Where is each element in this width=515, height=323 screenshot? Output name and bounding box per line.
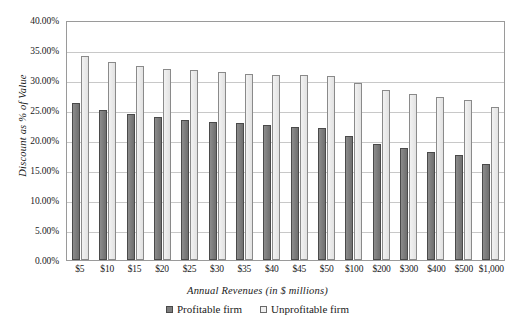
bar xyxy=(263,125,271,260)
bar xyxy=(127,114,135,260)
y-axis-tick-label: 20.00% xyxy=(30,136,59,146)
y-axis-tick-label: 40.00% xyxy=(30,16,59,26)
x-axis-title: Annual Revenues (in $ millions) xyxy=(0,285,515,296)
bar-group xyxy=(422,22,449,260)
x-axis-tick-labels: $5$10$15$20$25$30$35$40$45$50$100$200$30… xyxy=(66,264,505,280)
x-axis-tick-label: $5 xyxy=(66,264,93,280)
x-axis-tick-label: $30 xyxy=(203,264,230,280)
bar xyxy=(181,120,189,260)
x-axis-tick-label: $500 xyxy=(450,264,477,280)
bar xyxy=(81,56,89,260)
bar xyxy=(272,75,280,260)
bar xyxy=(373,144,381,260)
bar xyxy=(300,75,308,260)
x-axis-tick-label: $50 xyxy=(313,264,340,280)
bar xyxy=(436,97,444,260)
bar xyxy=(382,90,390,260)
bar-group xyxy=(149,22,176,260)
legend-item: Unprofitable firm xyxy=(260,303,349,315)
bar-group xyxy=(449,22,476,260)
bar-group xyxy=(477,22,504,260)
legend-swatch-icon xyxy=(260,306,267,313)
legend-swatch-icon xyxy=(166,306,173,313)
x-axis-tick-label: $300 xyxy=(395,264,422,280)
bar-chart: Discount as % of Value 0.00%5.00%10.00%1… xyxy=(0,0,515,323)
bar-group xyxy=(176,22,203,260)
bar xyxy=(99,110,107,260)
y-axis-tick-label: 35.00% xyxy=(30,46,59,56)
bar-group xyxy=(231,22,258,260)
bar xyxy=(136,66,144,260)
legend-item: Profitable firm xyxy=(166,303,242,315)
bars-layer xyxy=(67,22,504,260)
x-axis-tick-label: $10 xyxy=(93,264,120,280)
x-axis-tick-label: $100 xyxy=(340,264,367,280)
bar-group xyxy=(258,22,285,260)
bar xyxy=(291,127,299,260)
x-axis-tick-label: $45 xyxy=(286,264,313,280)
legend-label: Profitable firm xyxy=(177,303,242,315)
bar-group xyxy=(94,22,121,260)
bar xyxy=(209,122,217,260)
y-axis-tick-label: 25.00% xyxy=(30,106,59,116)
x-axis-tick-label: $40 xyxy=(258,264,285,280)
bar xyxy=(163,69,171,260)
x-axis-tick-label: $15 xyxy=(121,264,148,280)
y-axis-tick-label: 15.00% xyxy=(30,166,59,176)
bar xyxy=(464,100,472,260)
bar xyxy=(236,123,244,260)
chart-legend: Profitable firmUnprofitable firm xyxy=(0,303,515,315)
bar-group xyxy=(395,22,422,260)
bar-group xyxy=(340,22,367,260)
bar xyxy=(154,117,162,260)
x-axis-tick-label: $400 xyxy=(423,264,450,280)
bar xyxy=(190,70,198,260)
bar xyxy=(72,103,80,260)
bar xyxy=(491,107,499,260)
bar-group xyxy=(313,22,340,260)
bar xyxy=(409,94,417,260)
bar-group xyxy=(67,22,94,260)
bar xyxy=(108,62,116,260)
legend-label: Unprofitable firm xyxy=(271,303,349,315)
bar xyxy=(327,76,335,260)
x-axis-tick-label: $1,000 xyxy=(478,264,505,280)
bar xyxy=(354,83,362,260)
bar xyxy=(245,74,253,260)
y-axis-tick-label: 5.00% xyxy=(35,226,59,236)
bar xyxy=(400,148,408,260)
x-axis-tick-label: $25 xyxy=(176,264,203,280)
bar xyxy=(482,164,490,260)
x-axis-tick-label: $200 xyxy=(368,264,395,280)
bar xyxy=(318,128,326,260)
bar xyxy=(345,136,353,260)
y-axis-tick-label: 30.00% xyxy=(30,76,59,86)
y-axis-tick-labels: 0.00%5.00%10.00%15.00%20.00%25.00%30.00%… xyxy=(0,21,62,261)
plot-area xyxy=(66,21,505,261)
bar xyxy=(455,155,463,260)
x-axis-tick-label: $20 xyxy=(148,264,175,280)
bar-group xyxy=(286,22,313,260)
bar-group xyxy=(204,22,231,260)
bar xyxy=(218,72,226,260)
y-axis-tick-label: 10.00% xyxy=(30,196,59,206)
bar-group xyxy=(367,22,394,260)
bar-group xyxy=(122,22,149,260)
y-axis-tick-label: 0.00% xyxy=(35,256,59,266)
x-axis-tick-label: $35 xyxy=(231,264,258,280)
bar xyxy=(427,152,435,260)
